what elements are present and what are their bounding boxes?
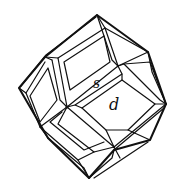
right-face — [105, 28, 166, 104]
crystal-drawing — [0, 0, 176, 186]
face-label-d: d — [109, 97, 119, 113]
crystal-diagram: s d — [0, 0, 176, 186]
central-vertex — [65, 105, 68, 108]
face-label-s: s — [93, 76, 100, 90]
lower-right-vertex — [113, 146, 115, 148]
lower-face — [40, 107, 148, 178]
upper-right-vertex — [117, 65, 119, 67]
